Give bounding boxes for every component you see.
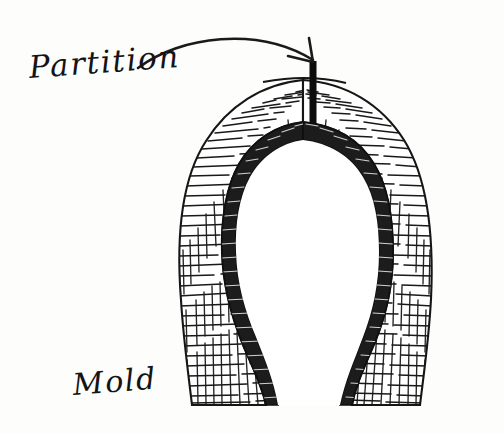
partition [310, 61, 317, 124]
label-mold: Mold [72, 363, 158, 400]
figure-canvas: Partition Mold [0, 0, 504, 434]
